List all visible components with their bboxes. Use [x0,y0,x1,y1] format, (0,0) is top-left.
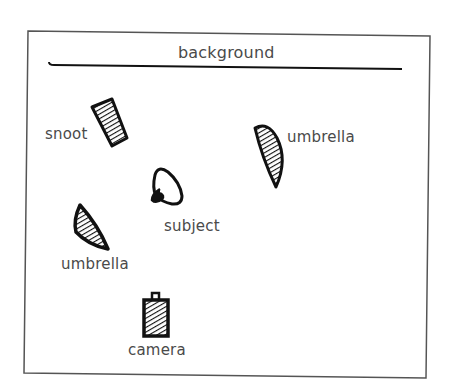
subject-head-icon [152,169,182,204]
background-line-icon [49,62,402,69]
label-umbrella-right: umbrella [287,128,355,146]
umbrella-icon [75,205,108,249]
label-camera: camera [128,341,186,359]
label-subject: subject [164,217,220,235]
umbrella-icon [255,126,282,187]
label-umbrella-left: umbrella [61,255,129,273]
diagram-frame [24,31,430,378]
camera-icon [144,293,168,336]
snoot-icon [92,99,127,146]
label-snoot: snoot [45,125,88,143]
label-background: background [178,43,275,62]
